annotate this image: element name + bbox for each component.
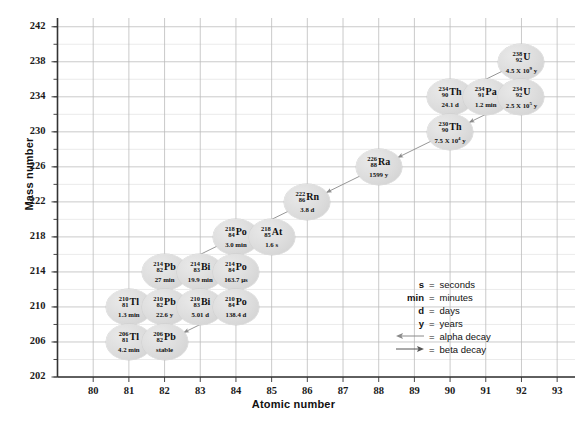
legend-value: beta decay bbox=[438, 343, 493, 356]
legend-value: minutes bbox=[438, 291, 493, 304]
x-tick-label: 81 bbox=[114, 385, 144, 396]
x-tick-label: 84 bbox=[221, 385, 251, 396]
legend-key: d bbox=[392, 304, 426, 317]
legend-key: y bbox=[392, 317, 426, 330]
legend-equals: = bbox=[426, 278, 438, 291]
legend-equals: = bbox=[426, 330, 438, 343]
half-life-label: 1.6 s bbox=[243, 241, 301, 248]
nuclide-node-ra226[interactable]: 22688Ra1599 y bbox=[356, 149, 402, 185]
arrow-right-icon bbox=[392, 343, 426, 356]
legend-equals: = bbox=[426, 304, 438, 317]
x-tick-label: 93 bbox=[542, 385, 572, 396]
nuclide-notation: 21885At bbox=[249, 223, 295, 239]
legend-value: seconds bbox=[438, 278, 493, 291]
x-tick-label: 88 bbox=[364, 385, 394, 396]
nuclide-node-u238[interactable]: 23892U4.5 X 109 y bbox=[498, 44, 544, 80]
nuclide-node-pb206[interactable]: 20682Pbstable bbox=[142, 324, 188, 360]
legend-row: d=days bbox=[392, 304, 493, 317]
y-tick-label: 210 bbox=[12, 300, 46, 311]
x-tick-label: 90 bbox=[435, 385, 465, 396]
y-tick-label: 238 bbox=[12, 55, 46, 66]
y-tick-label: 222 bbox=[12, 195, 46, 206]
nuclide-notation: 23090Th bbox=[427, 118, 473, 134]
nuclide-node-u234[interactable]: 23492U2.5 X 105 y bbox=[498, 79, 544, 115]
x-tick-label: 91 bbox=[471, 385, 501, 396]
nuclide-notation: 20682Pb bbox=[142, 328, 188, 344]
y-tick-label: 218 bbox=[12, 230, 46, 241]
half-life-label: 1599 y bbox=[350, 171, 408, 178]
nuclide-node-rn222[interactable]: 22286Rn3.8 d bbox=[284, 184, 330, 220]
legend-key: s bbox=[392, 278, 426, 291]
x-axis-label: Atomic number bbox=[0, 398, 587, 410]
half-life-label: 163.7 µs bbox=[207, 276, 265, 283]
y-tick-label: 226 bbox=[12, 160, 46, 171]
x-tick-label: 87 bbox=[328, 385, 358, 396]
legend-equals: = bbox=[426, 317, 438, 330]
legend-value: years bbox=[438, 317, 493, 330]
x-tick-label: 89 bbox=[399, 385, 429, 396]
legend-value: alpha decay bbox=[438, 330, 493, 343]
nuclide-notation: 22688Ra bbox=[356, 153, 402, 169]
half-life-label: stable bbox=[136, 346, 194, 353]
half-life-label: 138.4 d bbox=[207, 311, 265, 318]
half-life-label: 3.8 d bbox=[278, 206, 336, 213]
legend-row: =beta decay bbox=[392, 343, 493, 356]
nuclide-notation: 23492U bbox=[498, 83, 544, 99]
legend-key: min bbox=[392, 291, 426, 304]
y-tick-label: 206 bbox=[12, 335, 46, 346]
y-tick-label: 214 bbox=[12, 265, 46, 276]
nuclide-notation: 23892U bbox=[498, 48, 544, 64]
nuclide-node-po214[interactable]: 21484Po163.7 µs bbox=[213, 254, 259, 290]
legend-equals: = bbox=[426, 291, 438, 304]
half-life-label: 2.5 X 105 y bbox=[492, 101, 550, 109]
x-tick-label: 85 bbox=[257, 385, 287, 396]
legend-row: s=seconds bbox=[392, 278, 493, 291]
legend-value: days bbox=[438, 304, 493, 317]
x-tick-label: 92 bbox=[506, 385, 536, 396]
y-tick-label: 202 bbox=[12, 370, 46, 381]
nuclide-notation: 22286Rn bbox=[284, 188, 330, 204]
decay-series-chart: Mass number Atomic number 20220621021421… bbox=[0, 0, 587, 421]
legend-equals: = bbox=[426, 343, 438, 356]
y-tick-label: 234 bbox=[12, 90, 46, 101]
half-life-label: 7.5 X 104 y bbox=[421, 136, 479, 144]
nuclide-node-at218[interactable]: 21885At1.6 s bbox=[249, 219, 295, 255]
legend-row: min=minutes bbox=[392, 291, 493, 304]
x-tick-label: 82 bbox=[150, 385, 180, 396]
y-tick-label: 230 bbox=[12, 125, 46, 136]
arrow-left-icon bbox=[392, 330, 426, 343]
x-tick-label: 86 bbox=[292, 385, 322, 396]
nuclide-node-th230[interactable]: 23090Th7.5 X 104 y bbox=[427, 114, 473, 150]
nuclide-notation: 21484Po bbox=[213, 258, 259, 274]
y-tick-label: 242 bbox=[12, 20, 46, 31]
x-tick-label: 80 bbox=[78, 385, 108, 396]
x-tick-label: 83 bbox=[185, 385, 215, 396]
nuclide-node-po210[interactable]: 21084Po138.4 d bbox=[213, 289, 259, 325]
legend: s=secondsmin=minutesd=daysy=years=alpha … bbox=[392, 278, 493, 356]
legend-row: y=years bbox=[392, 317, 493, 330]
nuclide-notation: 21084Po bbox=[213, 293, 259, 309]
half-life-label: 4.5 X 109 y bbox=[492, 66, 550, 74]
legend-row: =alpha decay bbox=[392, 330, 493, 343]
